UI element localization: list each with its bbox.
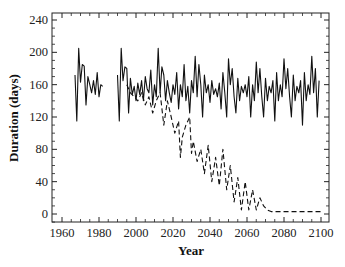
plot-frame <box>52 13 329 222</box>
y-tick-label: 40 <box>36 175 49 189</box>
series-solid-line <box>75 48 103 121</box>
x-tick-label: 2020 <box>161 226 186 240</box>
series-solid-line <box>118 48 320 125</box>
y-axis-title: Duration (days) <box>6 74 21 162</box>
chart: 04080120160200240 1960198020002020204020… <box>0 0 345 267</box>
y-tick-label: 80 <box>36 142 49 156</box>
x-axis-ticks: 19601980200020202040206020802100 <box>50 13 334 240</box>
y-tick-label: 0 <box>42 207 48 221</box>
y-axis-ticks: 04080120160200240 <box>29 13 329 222</box>
y-tick-label: 160 <box>29 78 48 92</box>
y-tick-label: 240 <box>29 13 48 27</box>
x-tick-label: 2100 <box>309 226 334 240</box>
x-tick-label: 2060 <box>235 226 260 240</box>
x-tick-label: 2040 <box>198 226 223 240</box>
y-tick-label: 120 <box>29 110 48 124</box>
x-tick-label: 1980 <box>87 226 112 240</box>
x-axis-title: Year <box>178 243 204 258</box>
y-tick-label: 200 <box>29 45 48 59</box>
x-tick-label: 1960 <box>50 226 75 240</box>
x-tick-label: 2080 <box>272 226 297 240</box>
x-tick-label: 2000 <box>124 226 149 240</box>
series-lines <box>75 48 321 211</box>
